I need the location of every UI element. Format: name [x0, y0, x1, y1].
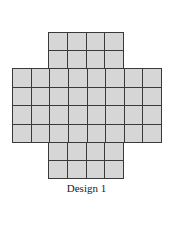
grid-cell [69, 88, 87, 106]
grid-cell [87, 33, 105, 50]
grid-cell [68, 51, 86, 68]
grid-cell [87, 51, 105, 68]
grid-cell [49, 51, 67, 68]
grid-cell [32, 106, 50, 124]
grid-cell [13, 69, 31, 87]
grid-cell [87, 143, 105, 160]
grid-cell [88, 125, 106, 143]
grid-cell [32, 125, 50, 143]
grid-cell [49, 33, 67, 50]
grid-cell [87, 161, 105, 178]
grid-cell [143, 125, 161, 143]
grid-cell [69, 69, 87, 87]
grid-cell [50, 69, 68, 87]
grid-cell [68, 161, 86, 178]
grid-cell [88, 88, 106, 106]
grid-cell [125, 88, 143, 106]
grid-cell [105, 33, 123, 50]
grid-cell [105, 51, 123, 68]
grid-cell [13, 88, 31, 106]
grid-cell [69, 125, 87, 143]
grid-cell [105, 161, 123, 178]
top-block [48, 32, 124, 69]
grid-cell [88, 106, 106, 124]
grid-cell [106, 106, 124, 124]
grid-cell [106, 88, 124, 106]
grid-cell [69, 106, 87, 124]
grid-cell [49, 143, 67, 160]
bottom-block [48, 142, 124, 179]
grid-cell [105, 143, 123, 160]
grid-cell [125, 69, 143, 87]
grid-cell [125, 125, 143, 143]
grid-cell [143, 69, 161, 87]
grid-cell [32, 88, 50, 106]
grid-cell [13, 125, 31, 143]
middle-block [12, 68, 162, 143]
grid-cell [50, 125, 68, 143]
grid-cell [143, 88, 161, 106]
grid-cell [143, 106, 161, 124]
grid-cell [68, 33, 86, 50]
grid-cell [49, 161, 67, 178]
grid-cell [106, 69, 124, 87]
grid-cell [88, 69, 106, 87]
figure-caption: Design 1 [0, 182, 173, 194]
grid-cell [106, 125, 124, 143]
grid-cell [50, 88, 68, 106]
grid-cell [13, 106, 31, 124]
grid-cell [50, 106, 68, 124]
grid-cell [125, 106, 143, 124]
grid-cell [32, 69, 50, 87]
grid-cell [68, 143, 86, 160]
